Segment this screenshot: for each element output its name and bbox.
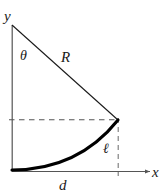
x-axis-arrowhead <box>145 170 150 174</box>
diagram-canvas: y x θ R ℓ d <box>0 0 167 193</box>
geometry-diagram-figure: y x θ R ℓ d <box>0 0 167 193</box>
base-d-label: d <box>59 177 67 193</box>
radius-line <box>12 25 118 120</box>
arc-length-ell-label: ℓ <box>103 141 109 156</box>
radius-r-label: R <box>60 49 70 65</box>
angle-theta-label: θ <box>20 48 27 63</box>
y-axis-label: y <box>2 8 11 24</box>
x-axis-label: x <box>151 164 159 180</box>
